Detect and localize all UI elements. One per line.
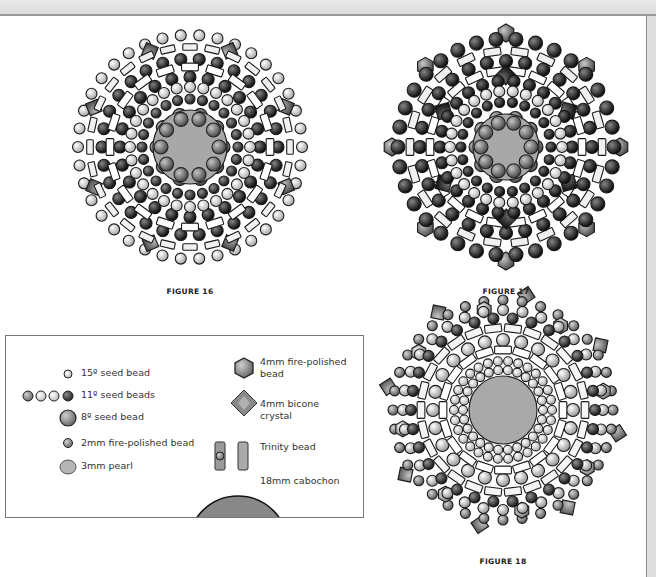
trinity-bead-ring: [106, 63, 274, 231]
page-margin: [647, 16, 656, 577]
round-bead-ring: [450, 357, 557, 463]
cabochon: [473, 114, 539, 180]
fp-4mm-icon: [235, 358, 253, 378]
cabochon: [153, 110, 227, 184]
bicone-bead-ring: [378, 285, 629, 536]
trinity-bead-ring: [406, 47, 606, 247]
seed-11-icon: [23, 391, 73, 401]
document-page: FIGURE 16 FIGURE 17 FIGURE 18: [0, 16, 647, 577]
legend-label-cabochon: 18mm cabochon: [260, 475, 340, 487]
hex-bead-ring: [384, 24, 628, 270]
trinity-icon: [215, 442, 248, 470]
legend-label-fp-2mm: 2mm fire-polished bead: [81, 437, 194, 449]
top-toolbar-band: [0, 0, 656, 16]
figure-17-caption: FIGURE 17: [446, 287, 566, 296]
legend-label-fp-4mm: 4mm fire-polished bead: [260, 356, 347, 380]
legend-label-pearl: 3mm pearl: [81, 460, 133, 472]
legend-label-seed-11: 11º seed beads: [81, 389, 155, 401]
fp-2mm-icon: [64, 439, 73, 448]
bead-legend: 15º seed bead11º seed beads8º seed bead2…: [5, 335, 364, 518]
round-bead-ring: [445, 86, 568, 208]
round-bead-ring: [406, 313, 601, 507]
hex-bead-ring: [396, 302, 610, 519]
trinity-bead-ring: [439, 346, 567, 474]
legend-label-seed-8: 8º seed bead: [81, 411, 144, 423]
round-bead-ring: [114, 71, 266, 223]
round-bead-ring: [125, 82, 256, 213]
round-bead-ring: [459, 366, 548, 454]
round-bead-ring: [434, 75, 578, 218]
cabochon-icon: [188, 496, 288, 517]
pearl-icon: [60, 460, 76, 474]
trinity-bead-ring: [426, 67, 586, 227]
round-bead-ring: [150, 109, 230, 186]
trinity-bead-ring: [87, 44, 294, 251]
round-bead-ring: [456, 97, 556, 196]
round-bead-ring: [391, 32, 621, 261]
figure-18-caption: FIGURE 18: [443, 557, 563, 566]
legend-label-trinity: Trinity bead: [260, 441, 316, 453]
round-bead-ring: [427, 334, 580, 487]
bicone-icon: [231, 390, 257, 416]
legend-label-bicone: 4mm bicone crystal: [260, 398, 319, 422]
trinity-bead-ring: [417, 324, 589, 496]
cabochon: [469, 376, 537, 444]
bicone-bead-ring: [82, 39, 298, 255]
seed-8-icon: [60, 410, 76, 426]
round-bead-ring: [414, 55, 599, 240]
round-bead-ring: [388, 295, 618, 525]
round-bead-ring: [96, 53, 284, 240]
round-bead-ring: [73, 30, 308, 264]
seed-15-icon: [64, 370, 72, 378]
round-bead-ring: [137, 94, 243, 200]
figure-16-caption: FIGURE 16: [130, 287, 250, 296]
round-bead-ring: [469, 111, 543, 182]
legend-label-seed-15: 15º seed bead: [81, 367, 150, 379]
bicone-bead-ring: [430, 65, 582, 229]
round-bead-ring: [398, 305, 609, 516]
